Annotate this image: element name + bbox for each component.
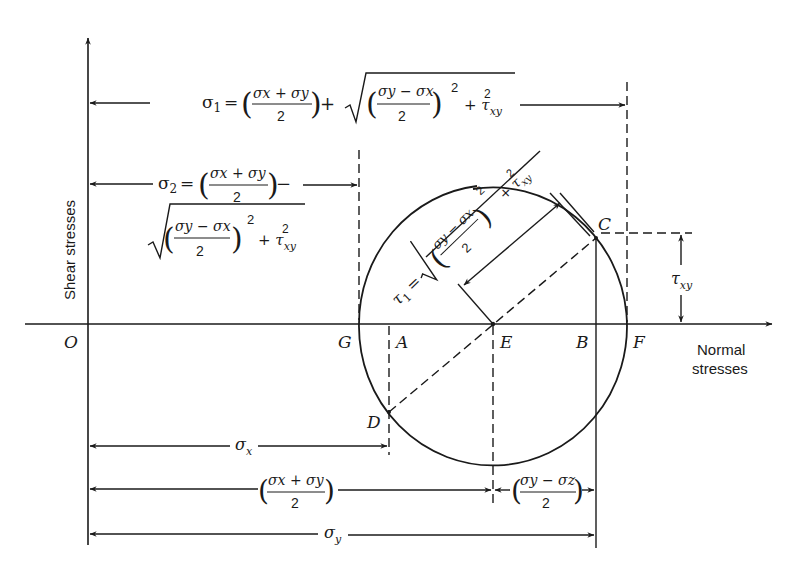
svg-text:=: = <box>224 92 238 112</box>
tau1-ext-c <box>560 193 594 232</box>
svg-text:2: 2 <box>291 495 299 511</box>
svg-text:σy − σx: σy − σx <box>175 218 231 234</box>
sigma1-formula: σ1 = ( σx + σy 2 ) + ( σy − σx 2 ) 2 + τ… <box>202 80 503 124</box>
svg-text:σ2: σ2 <box>158 173 177 196</box>
svg-text:2: 2 <box>451 80 458 95</box>
svg-text:): ) <box>573 474 584 507</box>
tau1-arc-pointer <box>550 193 590 236</box>
stresses-label: stresses <box>692 360 748 377</box>
point-o-label: O <box>64 332 78 352</box>
point-f-label: F <box>632 332 646 352</box>
sigma-y-label: σy <box>324 523 342 546</box>
svg-text:+ τxy: + τxy <box>258 231 297 253</box>
point-d-dot <box>387 410 391 414</box>
svg-text:2: 2 <box>277 108 285 124</box>
svg-text:): ) <box>231 221 243 256</box>
svg-text:2: 2 <box>233 189 241 205</box>
svg-text:(: ( <box>163 221 175 256</box>
svg-text:2: 2 <box>282 222 289 236</box>
svg-text:σ1: σ1 <box>202 92 221 115</box>
svg-text:σx + σy: σx + σy <box>268 472 325 488</box>
tau1-formula: τ1 = ( σy − σx 2 ) 2 + τxy 2 <box>372 150 541 316</box>
svg-text:(: ( <box>198 167 210 202</box>
svg-text:(: ( <box>366 86 378 121</box>
svg-text:2: 2 <box>247 212 254 227</box>
svg-text:(: ( <box>241 86 253 121</box>
point-a-label: A <box>394 332 408 352</box>
tau1-ext-e <box>458 284 493 324</box>
point-e-dot <box>491 322 495 326</box>
svg-text:σx + σy: σx + σy <box>210 165 267 181</box>
sigma-x-label: σx <box>235 435 253 458</box>
point-g-label: G <box>338 332 352 352</box>
svg-text:2: 2 <box>542 495 550 511</box>
svg-text:σy − σz: σy − σz <box>520 472 576 488</box>
svg-text:2: 2 <box>398 108 406 124</box>
point-c-label: C <box>598 214 611 234</box>
svg-text:+ τxy: + τxy <box>495 166 534 204</box>
point-d-label: D <box>366 412 381 432</box>
svg-text:): ) <box>431 86 443 121</box>
svg-text:σx + σy: σx + σy <box>253 85 310 101</box>
shear-stresses-label: Shear stresses <box>61 200 78 300</box>
svg-text:2: 2 <box>196 243 204 259</box>
svg-text:−: − <box>276 173 291 194</box>
normal-label: Normal <box>697 341 745 358</box>
point-e-label: E <box>499 332 513 352</box>
point-b-label: B <box>575 332 589 352</box>
tau-xy-label: τxy <box>671 269 693 292</box>
svg-text:σy − σx: σy − σx <box>378 83 434 99</box>
svg-text:2: 2 <box>458 240 474 256</box>
svg-text:2: 2 <box>473 183 488 198</box>
sigma2-formula: σ2 = ( σx + σy 2 ) − ( σy − σx 2 ) 2 + τ… <box>158 165 297 259</box>
svg-text:σy − σx: σy − σx <box>429 205 477 252</box>
point-c-dot <box>594 236 598 240</box>
svg-text:2: 2 <box>484 87 491 101</box>
mohr-circle-diagram: Shear stresses Normal stresses O G A E B… <box>0 0 804 570</box>
svg-text:=: = <box>180 173 194 193</box>
svg-text:): ) <box>324 474 335 507</box>
half-diff-label: ( σy − σz 2 ) <box>511 472 584 511</box>
mean-label: ( σx + σy 2 ) <box>258 472 335 511</box>
svg-text:+: + <box>320 93 335 114</box>
